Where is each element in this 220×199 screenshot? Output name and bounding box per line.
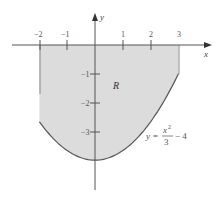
y-axis-arrow-icon <box>92 13 98 21</box>
y-axis-label: y <box>99 12 104 22</box>
curve-equation: y = x 2 3 − 4 <box>145 124 187 147</box>
x-axis-label: x <box>203 49 208 59</box>
equation-tail: − 4 <box>175 131 187 141</box>
equation-exponent: 2 <box>168 124 171 130</box>
y-tick-label: −3 <box>81 128 90 137</box>
x-axis-arrow-icon <box>204 42 212 48</box>
y-tick-label: −2 <box>81 99 90 108</box>
equation-numerator: x <box>162 125 167 135</box>
equation-denominator: 3 <box>164 137 169 147</box>
x-tick-label: 2 <box>149 30 153 39</box>
region-diagram: x y −2 −1 1 2 3 −1 −2 −3 R y = x 2 3 − 4 <box>0 0 220 199</box>
shaded-region-r <box>39 45 178 160</box>
x-tick-label: −1 <box>61 30 70 39</box>
x-tick-label: 3 <box>177 30 181 39</box>
x-tick-label: 1 <box>121 30 125 39</box>
x-tick-label: −2 <box>34 30 43 39</box>
region-label: R <box>112 80 119 91</box>
y-tick-label: −1 <box>81 70 90 79</box>
equation-lhs-text: y = <box>145 131 158 141</box>
equation-lhs: y = <box>145 131 158 141</box>
